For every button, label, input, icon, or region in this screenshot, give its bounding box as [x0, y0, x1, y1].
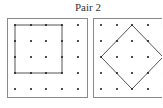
right-panel-border: [94, 19, 163, 98]
right-dot-grid: [100, 24, 162, 90]
grid-dot: [147, 72, 149, 74]
grid-dot: [77, 24, 79, 26]
geoboard-pair: [0, 0, 162, 108]
grid-dot: [131, 56, 133, 58]
grid-dot: [116, 88, 118, 90]
left-dot-grid: [14, 24, 79, 90]
grid-dot: [131, 88, 133, 90]
grid-dot: [116, 56, 118, 58]
grid-dot: [77, 56, 79, 58]
square-shape: [15, 25, 62, 73]
grid-dot: [30, 72, 32, 74]
grid-dot: [30, 40, 32, 42]
grid-dot: [61, 40, 63, 42]
grid-dot: [147, 24, 149, 26]
grid-dot: [61, 88, 63, 90]
grid-dot: [45, 56, 47, 58]
grid-dot: [131, 40, 133, 42]
grid-dot: [100, 24, 102, 26]
grid-dot: [77, 88, 79, 90]
grid-dot: [116, 40, 118, 42]
grid-dot: [116, 24, 118, 26]
grid-dot: [45, 40, 47, 42]
grid-dot: [14, 56, 16, 58]
grid-dot: [61, 24, 63, 26]
grid-dot: [30, 56, 32, 58]
grid-dot: [147, 88, 149, 90]
grid-dot: [147, 40, 149, 42]
grid-dot: [100, 72, 102, 74]
grid-dot: [30, 88, 32, 90]
grid-dot: [131, 72, 133, 74]
grid-dot: [116, 72, 118, 74]
grid-dot: [45, 72, 47, 74]
grid-dot: [14, 40, 16, 42]
grid-dot: [61, 56, 63, 58]
grid-dot: [45, 24, 47, 26]
grid-dot: [147, 56, 149, 58]
grid-dot: [77, 72, 79, 74]
grid-dot: [131, 24, 133, 26]
grid-dot: [45, 88, 47, 90]
grid-dot: [100, 56, 102, 58]
grid-dot: [30, 24, 32, 26]
grid-dot: [100, 40, 102, 42]
grid-dot: [14, 72, 16, 74]
grid-dot: [14, 88, 16, 90]
right-geoboard: [94, 19, 163, 98]
left-panel-border: [8, 19, 88, 98]
grid-dot: [61, 72, 63, 74]
grid-dot: [77, 40, 79, 42]
grid-dot: [14, 24, 16, 26]
grid-dot: [100, 88, 102, 90]
left-geoboard: [8, 19, 88, 98]
